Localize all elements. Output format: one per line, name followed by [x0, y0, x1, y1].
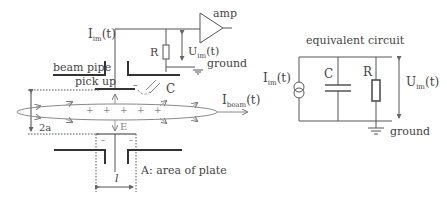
pickup-schematic: amp R Uim(t) ground Iim(t) beam pipe pic…	[17, 7, 260, 192]
equivalent-circuit: equivalent circuit Iim(t) C R groun	[263, 34, 439, 138]
eq-ground-icon	[368, 128, 384, 134]
svg-text:+: +	[86, 105, 94, 115]
plate-length-label: l	[115, 172, 119, 185]
svg-text:+: +	[154, 105, 162, 115]
pickup-diagram: amp R Uim(t) ground Iim(t) beam pipe pic…	[0, 0, 447, 206]
capacitor-icon	[138, 80, 160, 94]
svg-text:–: –	[133, 80, 138, 90]
eq-current-label: Iim(t)	[263, 71, 291, 87]
amp-label: amp	[213, 7, 237, 20]
svg-text:+: +	[103, 105, 111, 115]
pickup-label: pick up	[75, 75, 116, 88]
eq-capacitor-label: C	[324, 67, 333, 81]
ground-label: ground	[207, 57, 247, 70]
eq-ground-label: ground	[390, 125, 430, 138]
eq-resistor-label: R	[363, 65, 373, 79]
resistor-icon	[163, 45, 169, 59]
equivalent-circuit-title: equivalent circuit	[306, 34, 405, 47]
resistor-label: R	[150, 46, 159, 59]
beam-pipe-label: beam pipe	[53, 61, 111, 74]
svg-text:+: +	[120, 105, 128, 115]
beam-pipe-top-right	[128, 61, 180, 75]
eq-capacitor-icon	[325, 85, 351, 91]
current-source-icon	[294, 82, 304, 98]
plate-area-label: A: area of plate	[140, 164, 227, 177]
beam-bunch	[17, 104, 217, 120]
ground-icon	[193, 70, 203, 74]
signal-wire	[115, 29, 200, 89]
aperture-label: 2a	[39, 122, 51, 133]
eq-resistor-icon	[372, 80, 380, 101]
beam-current-label: Ibeam(t)	[222, 93, 260, 109]
field-label: E	[120, 121, 127, 132]
current-label: Iim(t)	[88, 27, 116, 43]
svg-text:–: –	[129, 135, 133, 144]
capacitor-label: C	[166, 82, 175, 96]
svg-text:–: –	[101, 135, 105, 144]
svg-text:+: +	[137, 105, 145, 115]
eq-voltage-label: Uim(t)	[406, 75, 439, 91]
beam-pipe-bottom-left	[54, 150, 105, 164]
